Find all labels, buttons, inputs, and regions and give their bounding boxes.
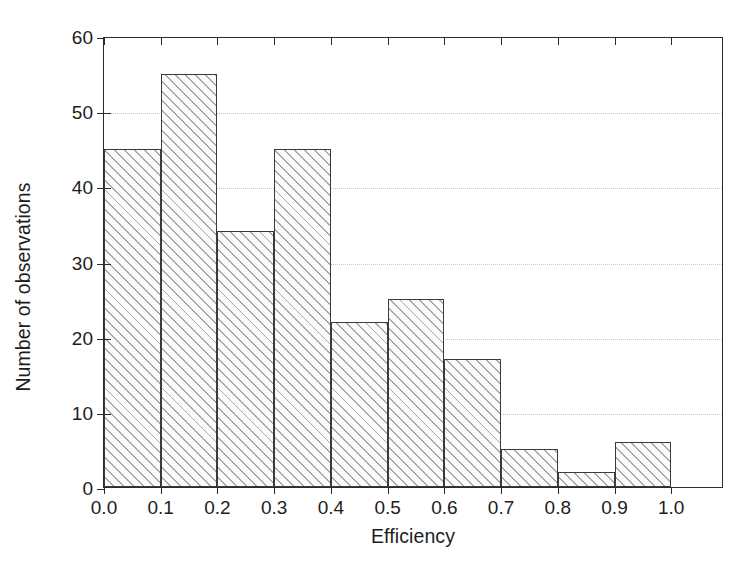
x-tick-mark-top <box>217 38 218 45</box>
histogram-bar <box>444 359 501 487</box>
y-tick-label: 40 <box>72 177 93 199</box>
histogram-bar <box>615 442 672 487</box>
x-tick-label: 0.3 <box>261 497 287 519</box>
x-tick-label: 0.0 <box>91 497 117 519</box>
x-tick-mark-top <box>615 38 616 45</box>
y-tick-mark-inner <box>104 339 111 340</box>
histogram-bar <box>388 299 445 487</box>
histogram-bar <box>501 449 558 487</box>
plot-area: 0102030405060 0.00.10.20.30.40.50.60.70.… <box>103 37 723 488</box>
x-tick-mark <box>161 487 162 494</box>
y-tick-label: 20 <box>72 328 93 350</box>
x-tick-mark <box>615 487 616 494</box>
x-tick-mark-top <box>331 38 332 45</box>
y-tick-mark-inner <box>104 264 111 265</box>
x-tick-mark-top <box>558 38 559 45</box>
x-tick-label: 0.4 <box>318 497 344 519</box>
x-tick-mark-top <box>161 38 162 45</box>
y-tick-mark <box>97 188 104 189</box>
x-tick-label: 0.9 <box>601 497 627 519</box>
y-tick-mark <box>97 489 104 490</box>
x-tick-mark <box>104 487 105 494</box>
x-tick-mark-top <box>501 38 502 45</box>
y-tick-mark <box>97 113 104 114</box>
x-tick-mark <box>217 487 218 494</box>
x-axis-title: Efficiency <box>103 525 723 548</box>
y-tick-mark <box>97 414 104 415</box>
x-tick-mark <box>671 487 672 494</box>
y-tick-mark <box>97 339 104 340</box>
histogram-figure: Number of observations 0102030405060 0.0… <box>0 0 750 574</box>
x-tick-mark-top <box>274 38 275 45</box>
x-tick-mark-top <box>444 38 445 45</box>
histogram-bar <box>161 74 218 487</box>
histogram-bar <box>217 231 274 487</box>
x-tick-mark-top <box>671 38 672 45</box>
x-tick-label: 0.2 <box>204 497 230 519</box>
x-tick-mark <box>274 487 275 494</box>
y-tick-mark-inner <box>104 113 111 114</box>
y-tick-mark-inner <box>104 188 111 189</box>
y-tick-label: 10 <box>72 403 93 425</box>
x-tick-mark-top <box>104 38 105 45</box>
y-tick-mark-inner <box>104 414 111 415</box>
x-tick-label: 0.5 <box>374 497 400 519</box>
x-tick-label: 1.0 <box>658 497 684 519</box>
plot-surface <box>104 38 722 487</box>
histogram-bar <box>331 322 388 487</box>
x-tick-mark-top <box>388 38 389 45</box>
y-tick-mark <box>97 264 104 265</box>
x-tick-mark <box>501 487 502 494</box>
y-tick-label: 60 <box>72 27 93 49</box>
y-tick-mark <box>97 38 104 39</box>
y-axis-title: Number of observations <box>0 0 46 574</box>
x-tick-label: 0.8 <box>545 497 571 519</box>
histogram-bar <box>274 149 331 487</box>
histogram-bar <box>104 149 161 487</box>
x-tick-label: 0.6 <box>431 497 457 519</box>
x-tick-mark <box>388 487 389 494</box>
histogram-bar <box>558 472 615 487</box>
x-tick-label: 0.1 <box>148 497 174 519</box>
y-tick-label: 30 <box>72 253 93 275</box>
y-tick-label: 50 <box>72 102 93 124</box>
x-tick-mark <box>558 487 559 494</box>
x-tick-mark <box>444 487 445 494</box>
x-tick-label: 0.7 <box>488 497 514 519</box>
x-tick-mark <box>331 487 332 494</box>
